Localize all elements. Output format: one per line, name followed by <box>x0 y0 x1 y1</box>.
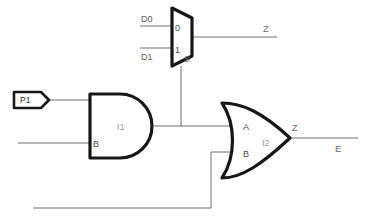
schematic-canvas: 0 1 B I1 A B I2 Z P1 D0 D1 S Z E <box>0 0 365 221</box>
and-gate-i1[interactable]: B I1 <box>90 94 152 158</box>
port-tag-p1[interactable]: P1 <box>14 92 49 108</box>
or-gate-output-pin-label: Z <box>292 123 298 133</box>
label-d1: D1 <box>141 52 153 62</box>
or-gate-instance-label: I2 <box>262 138 270 148</box>
label-d0: D0 <box>141 14 153 24</box>
label-select-s: S <box>184 54 190 64</box>
net-label-z: Z <box>263 23 269 34</box>
mux-pin-1-label: 1 <box>175 45 180 55</box>
or-gate-i2[interactable]: A B I2 Z <box>222 103 298 178</box>
or-gate-pin-a-label: A <box>243 122 249 132</box>
and-gate-pin-b-label: B <box>93 139 99 149</box>
or-gate-body[interactable] <box>222 103 290 178</box>
logic-schematic: 0 1 B I1 A B I2 Z P1 D0 D1 S Z E <box>0 0 365 221</box>
wire-bottom-to-or-b[interactable] <box>33 152 240 208</box>
net-label-e: E <box>335 143 341 154</box>
or-gate-pin-b-label: B <box>243 149 249 159</box>
and-gate-instance-label: I1 <box>117 122 125 132</box>
port-tag-label: P1 <box>20 95 31 105</box>
mux-pin-0-label: 0 <box>175 23 180 33</box>
